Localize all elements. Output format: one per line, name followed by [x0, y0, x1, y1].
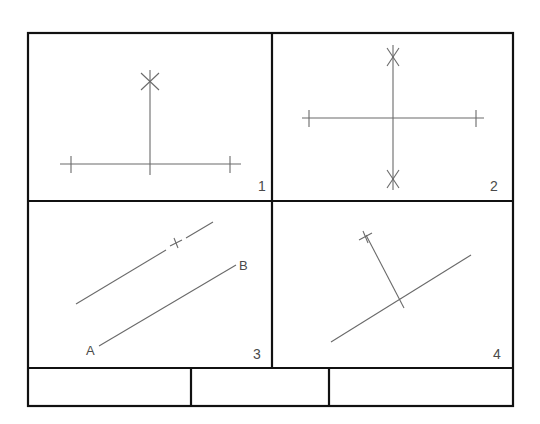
point-a-label: A: [86, 343, 95, 358]
inclined-line: [331, 255, 471, 342]
drawing-sheet: 1 2 A B 3: [0, 0, 540, 424]
panel-1: 1: [60, 70, 266, 194]
parallel-line-segment-2: [186, 222, 213, 238]
panel-number: 1: [258, 178, 266, 194]
panel-number: 4: [493, 346, 501, 362]
point-b-label: B: [239, 258, 248, 273]
outer-border: [28, 33, 513, 406]
panel-3: A B 3: [76, 222, 261, 362]
panel-number: 2: [490, 178, 498, 194]
sheet-frame: [28, 33, 513, 406]
panel-4: 4: [331, 231, 501, 362]
line-ab: [99, 265, 236, 346]
panel-number: 3: [253, 346, 261, 362]
tick-cross-icon: [359, 231, 372, 243]
perpendicular-line: [366, 235, 404, 308]
parallel-line-segment-1: [76, 250, 166, 304]
tick-cross-icon: [170, 238, 182, 248]
panel-2: 2: [302, 45, 498, 194]
